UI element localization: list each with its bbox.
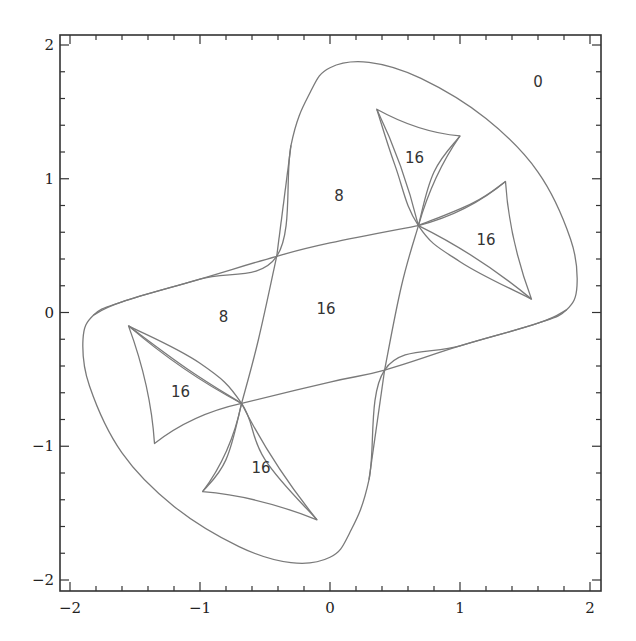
inner-crossing-curve [242, 310, 567, 404]
region-label: 16 [476, 231, 495, 249]
x-tick-label: 2 [585, 599, 595, 617]
y-tick-label: 1 [44, 170, 54, 188]
y-tick-label: 2 [44, 36, 54, 54]
x-axis-ticks: −2−1012 [59, 35, 595, 617]
inner-crossing-curve [203, 403, 242, 491]
x-tick-label: 1 [455, 599, 465, 617]
region-label: 0 [533, 73, 543, 91]
axes: −2−1012 210−1−2 [32, 35, 601, 617]
cusp-triangle-upper-left [377, 109, 460, 225]
region-label: 16 [317, 300, 336, 318]
y-tick-label: 0 [44, 304, 54, 322]
region-label: 8 [334, 187, 344, 205]
region-label: 8 [219, 308, 229, 326]
inner-crossing-curve [129, 326, 318, 520]
inner-crossing-curve [369, 370, 385, 480]
y-tick-label: −1 [32, 437, 54, 455]
x-tick-label: 0 [325, 599, 335, 617]
inner-crossing-curve [242, 256, 277, 403]
region-label: 16 [171, 383, 190, 401]
region-label: 16 [405, 149, 424, 167]
cusp-triangle-upper-right [418, 181, 531, 299]
inner-crossing-curve [385, 226, 419, 370]
x-tick-label: −2 [59, 599, 81, 617]
x-tick-label: −1 [189, 599, 211, 617]
figure: 0168168161616 −2−1012 210−1−2 [0, 0, 636, 641]
region-label: 16 [252, 459, 271, 477]
y-tick-label: −2 [32, 571, 54, 589]
